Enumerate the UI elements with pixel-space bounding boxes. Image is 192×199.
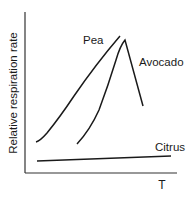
series-pea-label: Pea	[83, 34, 104, 46]
series-pea-line	[36, 36, 120, 142]
series-avocado-line	[77, 40, 143, 144]
series-avocado-label: Avocado	[139, 56, 184, 68]
y-axis-label: Relative respiration rate	[7, 32, 19, 153]
series-citrus-label: Citrus	[155, 141, 185, 153]
x-axis-label: T	[158, 178, 166, 192]
respiration-chart: Relative respiration rate T Pea Avocado …	[0, 0, 192, 199]
series-citrus-line	[37, 156, 171, 161]
